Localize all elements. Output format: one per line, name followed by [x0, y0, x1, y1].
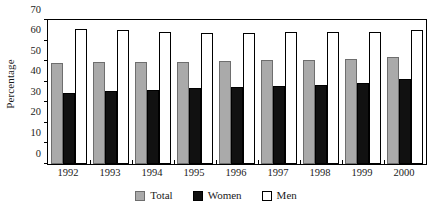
bar-men-1992 [75, 29, 87, 164]
bar-women-1999 [357, 83, 369, 164]
y-axis-title-text: Percentage [4, 59, 16, 108]
bar-total-1998 [303, 60, 315, 165]
legend-swatch-women [193, 191, 203, 201]
legend-item-total: Total [135, 190, 172, 201]
bar-group-1994 [132, 20, 174, 164]
x-axis-tick-label-1994: 1994 [131, 166, 173, 182]
bar-women-1996 [231, 87, 243, 164]
y-axis-tick-label: 10 [31, 128, 42, 139]
bar-chart: Percentage 010203040506070 1992199319941… [0, 0, 432, 215]
bar-men-1999 [369, 32, 381, 164]
bar-men-1993 [117, 30, 129, 164]
legend-swatch-men [262, 191, 272, 201]
legend-item-women: Women [193, 190, 242, 201]
x-axis-tick-label-1997: 1997 [257, 166, 299, 182]
x-axis-tick-labels: 199219931994199519961997199819992000 [47, 166, 425, 182]
bar-total-1996 [219, 61, 231, 164]
bar-women-1998 [315, 85, 327, 164]
y-axis-tick-label: 60 [31, 25, 42, 36]
bar-total-1994 [135, 62, 147, 164]
bar-total-1997 [261, 60, 273, 164]
y-axis-tick-label: 40 [31, 66, 42, 77]
legend-label-total: Total [150, 190, 172, 201]
bar-total-1993 [93, 62, 105, 164]
bar-men-1997 [285, 32, 297, 164]
bar-groups [48, 20, 426, 164]
plot-area: 010203040506070 [47, 19, 427, 165]
x-axis-tick-label-1998: 1998 [299, 166, 341, 182]
bar-group-1992 [48, 20, 90, 164]
x-axis-tick-label-1995: 1995 [173, 166, 215, 182]
legend-swatch-total [135, 191, 145, 201]
bar-men-1995 [201, 33, 213, 164]
bar-group-1997 [258, 20, 300, 164]
bar-women-1995 [189, 88, 201, 164]
bar-women-1994 [147, 90, 159, 164]
bar-group-1995 [174, 20, 216, 164]
bar-women-1997 [273, 86, 285, 164]
bar-men-2000 [411, 30, 423, 164]
bar-women-1993 [105, 91, 117, 164]
bar-women-1992 [63, 93, 75, 164]
bar-total-2000 [387, 57, 399, 164]
bar-group-1993 [90, 20, 132, 164]
x-axis-tick-label-1993: 1993 [89, 166, 131, 182]
x-axis-tick-label-1996: 1996 [215, 166, 257, 182]
bar-group-1996 [216, 20, 258, 164]
bar-group-1999 [342, 20, 384, 164]
legend-label-men: Men [277, 190, 297, 201]
x-axis-tick-label-1992: 1992 [47, 166, 89, 182]
bar-total-1992 [51, 63, 63, 164]
legend-label-women: Women [208, 190, 242, 201]
y-axis-tick-label: 70 [31, 4, 42, 15]
x-axis-tick-label-2000: 2000 [383, 166, 425, 182]
y-axis-title: Percentage [0, 0, 20, 168]
y-axis-tick-label: 30 [31, 87, 42, 98]
bar-men-1996 [243, 33, 255, 164]
bar-men-1994 [159, 32, 171, 164]
bar-women-2000 [399, 79, 411, 164]
y-axis-tick-label: 20 [31, 107, 42, 118]
bar-men-1998 [327, 32, 339, 164]
bar-total-1999 [345, 59, 357, 164]
y-axis-tick-label: 0 [36, 148, 41, 159]
x-axis-tick-label-1999: 1999 [341, 166, 383, 182]
legend: TotalWomenMen [0, 190, 432, 201]
bar-group-2000 [384, 20, 426, 164]
legend-item-men: Men [262, 190, 297, 201]
bar-total-1995 [177, 62, 189, 164]
y-axis-tick-label: 50 [31, 45, 42, 56]
bar-group-1998 [300, 20, 342, 164]
